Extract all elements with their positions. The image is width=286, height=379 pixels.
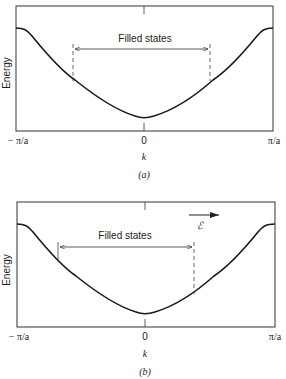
panel-b: Filled states ℰ Energy − π/a 0 π/a k (b) — [1, 202, 282, 378]
tick-right: π/a — [268, 135, 281, 146]
panel-caption: (b) — [139, 366, 151, 378]
energy-axis-label: Energy — [1, 57, 12, 89]
tick-right: π/a — [269, 331, 282, 342]
band-diagram: Filled states Energy − π/a 0 π/a k (a) F… — [0, 0, 286, 379]
tick-left: − π/a — [9, 331, 30, 342]
energy-axis-label: Energy — [1, 254, 12, 286]
k-axis-label: k — [143, 348, 148, 359]
k-axis-label: k — [142, 151, 147, 162]
plot-frame — [17, 202, 275, 327]
filled-states-label: Filled states — [98, 230, 151, 241]
panel-caption: (a) — [138, 169, 150, 181]
plot-frame — [16, 6, 273, 131]
tick-center: 0 — [142, 331, 148, 342]
tick-left: − π/a — [8, 135, 29, 146]
tick-center: 0 — [141, 135, 147, 146]
electric-field-label: ℰ — [197, 220, 204, 231]
panel-a: Filled states Energy − π/a 0 π/a k (a) — [1, 6, 281, 181]
filled-states-label: Filled states — [118, 33, 171, 44]
